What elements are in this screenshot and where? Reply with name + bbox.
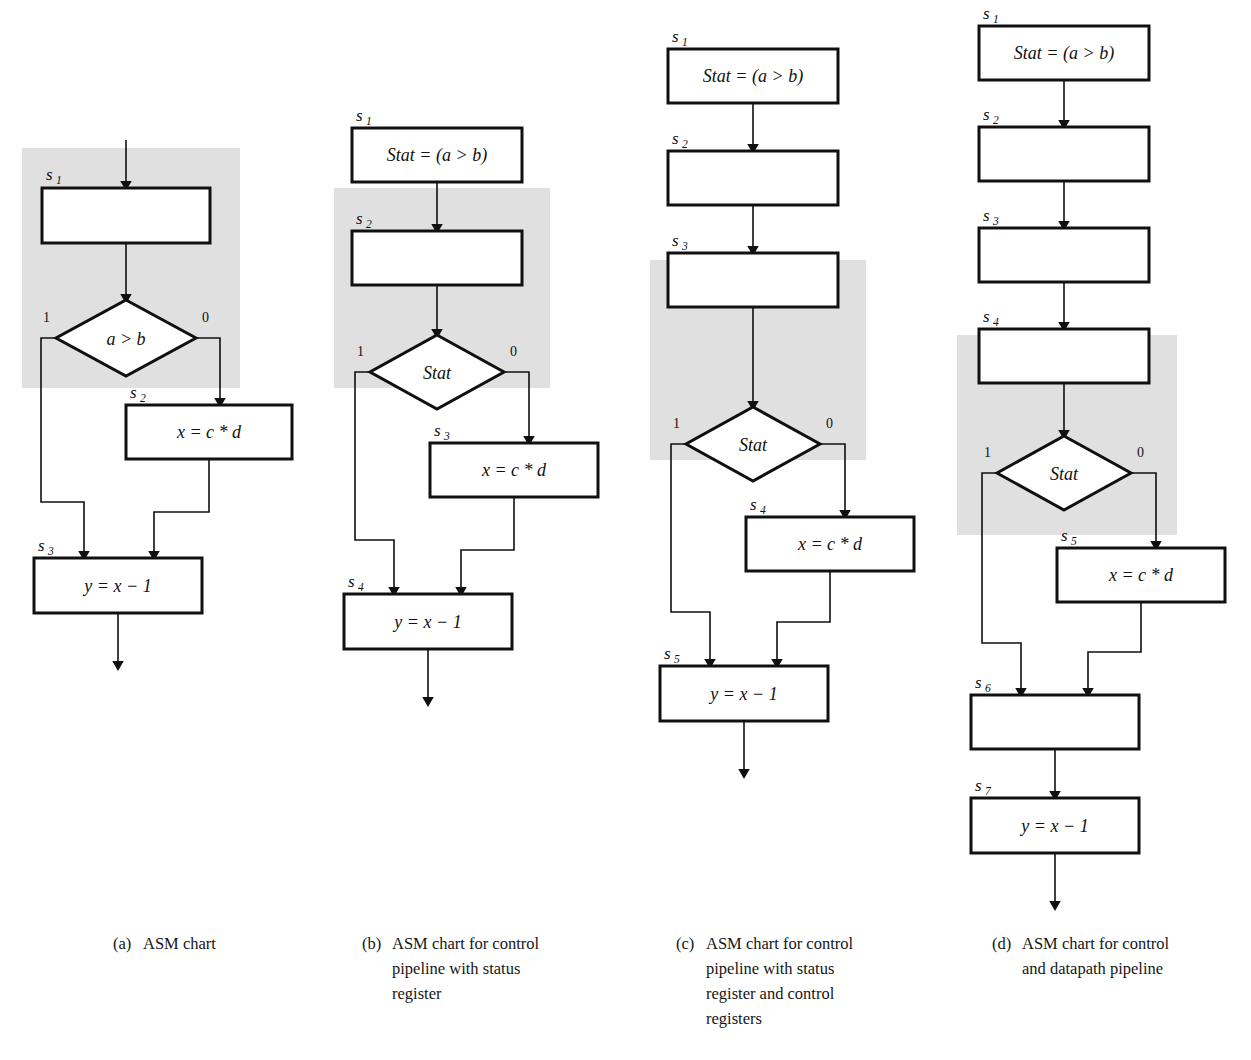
edge-true-b: [355, 372, 394, 589]
state-box-s2: [352, 231, 522, 285]
state-label-s4: s: [348, 572, 355, 591]
edge-s5-to-s6-d: [1088, 602, 1141, 690]
state-label-s4-sub: 4: [358, 581, 364, 593]
state-label-s1-sub: 1: [56, 174, 62, 186]
state-label-s6-sub: 6: [985, 682, 991, 694]
state-box-s2: [979, 127, 1149, 181]
state-label-s1-sub: 1: [993, 13, 999, 25]
state-label-s5-sub: 5: [674, 653, 680, 665]
state-box-s6: [971, 695, 1139, 749]
state-label-s4: s: [983, 307, 990, 326]
branch-true-label-a: 1: [43, 310, 50, 325]
state-label-s4-sub: 4: [760, 504, 766, 516]
state-label-s1: s: [356, 106, 363, 125]
caption-c-tag: (c): [676, 931, 706, 956]
state-expr-s4: y = x − 1: [392, 612, 461, 632]
figure-page: s 1 a > b 1 0 s 2 x = c * d s 3 y = x − …: [0, 0, 1251, 1060]
state-label-s4-sub: 4: [993, 316, 999, 328]
edge-true-c: [671, 444, 710, 661]
decision-label-a: a > b: [106, 329, 145, 349]
state-label-s2-sub: 2: [993, 114, 999, 126]
state-label-s1-sub: 1: [682, 36, 688, 48]
state-label-s3-sub: 3: [992, 215, 999, 227]
decision-label-c: Stat: [739, 435, 768, 455]
branch-false-label-c: 0: [826, 416, 833, 431]
asm-panel-c: s 1 Stat = (a > b) s 2 s 3 Stat 1 0 s 4 …: [636, 0, 956, 900]
edge-s3-to-s4-b: [461, 497, 514, 589]
edge-s2-to-s3-a: [154, 459, 209, 553]
caption-a: (a) ASM chart: [113, 931, 313, 956]
state-label-s7-sub: 7: [985, 785, 992, 797]
state-label-s2: s: [356, 209, 363, 228]
branch-true-label-b: 1: [357, 344, 364, 359]
state-label-s4: s: [750, 495, 757, 514]
edge-s4-to-s5-c: [777, 571, 830, 661]
asm-panel-d: s 1 Stat = (a > b) s 2 s 3 s 4 Stat 1 0 …: [931, 0, 1251, 940]
asm-panel-a: s 1 a > b 1 0 s 2 x = c * d s 3 y = x − …: [0, 0, 320, 900]
state-label-s1: s: [983, 4, 990, 23]
branch-true-label-d: 1: [984, 445, 991, 460]
state-label-s3-sub: 3: [47, 545, 54, 557]
caption-a-tag: (a): [113, 931, 143, 956]
state-label-s5: s: [1061, 526, 1068, 545]
caption-c: (c) ASM chart for control pipeline with …: [676, 931, 891, 1031]
state-expr-s3: y = x − 1: [82, 576, 151, 596]
decision-label-b: Stat: [423, 363, 452, 383]
state-box-s3: [979, 228, 1149, 282]
state-label-s2: s: [983, 105, 990, 124]
state-label-s2-sub: 2: [682, 138, 688, 150]
state-label-s2: s: [672, 129, 679, 148]
state-box-s4: [979, 329, 1149, 383]
state-expr-s4: x = c * d: [797, 534, 863, 554]
state-label-s3-sub: 3: [443, 430, 450, 442]
caption-d: (d) ASM chart for control and datapath p…: [992, 931, 1207, 981]
state-expr-s1: Stat = (a > b): [1014, 43, 1114, 64]
caption-c-text: ASM chart for control pipeline with stat…: [706, 931, 891, 1031]
state-label-s3: s: [983, 206, 990, 225]
branch-false-label-d: 0: [1137, 445, 1144, 460]
caption-b-tag: (b): [362, 931, 392, 956]
asm-panel-b: s 1 Stat = (a > b) s 2 Stat 1 0 s 3 x = …: [318, 0, 638, 900]
state-label-s2: s: [130, 383, 137, 402]
state-label-s2-sub: 2: [140, 392, 146, 404]
state-expr-s5: y = x − 1: [708, 684, 777, 704]
branch-false-label-a: 0: [202, 310, 209, 325]
decision-label-d: Stat: [1050, 464, 1079, 484]
state-label-s5-sub: 5: [1071, 535, 1077, 547]
state-expr-s7: y = x − 1: [1019, 816, 1088, 836]
state-label-s1: s: [46, 165, 53, 184]
state-label-s3: s: [672, 231, 679, 250]
state-label-s3-sub: 3: [681, 240, 688, 252]
state-box-s2: [668, 151, 838, 205]
state-expr-s1: Stat = (a > b): [703, 66, 803, 87]
state-expr-s1: Stat = (a > b): [387, 145, 487, 166]
state-expr-s3: x = c * d: [481, 460, 547, 480]
state-label-s1-sub: 1: [366, 115, 372, 127]
state-label-s1: s: [672, 27, 679, 46]
caption-b: (b) ASM chart for control pipeline with …: [362, 931, 572, 1006]
state-label-s6: s: [975, 673, 982, 692]
caption-b-text: ASM chart for control pipeline with stat…: [392, 931, 572, 1006]
state-expr-s5: x = c * d: [1108, 565, 1174, 585]
state-label-s2-sub: 2: [366, 218, 372, 230]
caption-a-text: ASM chart: [143, 931, 313, 956]
caption-d-tag: (d): [992, 931, 1022, 956]
branch-true-label-c: 1: [673, 416, 680, 431]
caption-d-text: ASM chart for control and datapath pipel…: [1022, 931, 1207, 981]
state-box-s3: [668, 253, 838, 307]
state-label-s3: s: [434, 421, 441, 440]
state-expr-s2: x = c * d: [176, 422, 242, 442]
state-label-s7: s: [975, 776, 982, 795]
state-box-s1: [42, 188, 210, 243]
branch-false-label-b: 0: [510, 344, 517, 359]
state-label-s3: s: [38, 536, 45, 555]
state-label-s5: s: [664, 644, 671, 663]
